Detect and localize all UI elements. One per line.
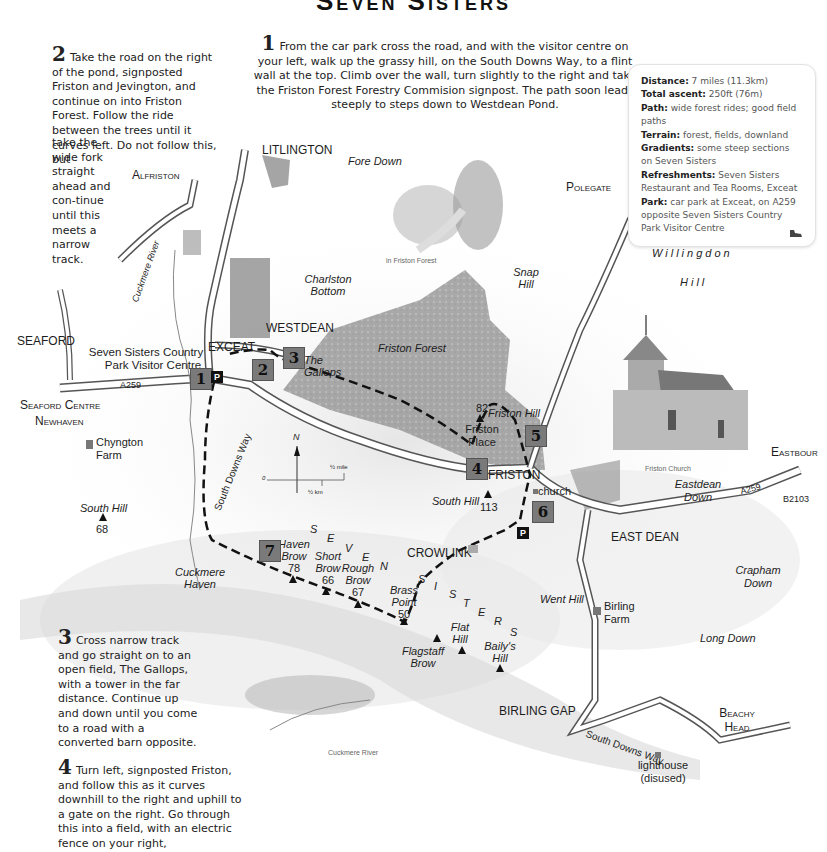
place-birling-farm: BirlingFarm bbox=[604, 600, 635, 626]
place-south-hill-east: South Hill bbox=[432, 495, 479, 507]
north-label: N bbox=[293, 432, 300, 442]
seven-letter: E bbox=[362, 551, 369, 563]
info-refreshments: Refreshments: Seven Sisters Restaurant a… bbox=[641, 169, 803, 196]
step-text: Cross narrow track and go straight on to… bbox=[58, 634, 197, 749]
place-the-gallops: TheGallops bbox=[304, 354, 341, 378]
forest-illustration bbox=[388, 150, 508, 260]
place-friston-forest: Friston Forest bbox=[378, 342, 446, 354]
info-terrain: Terrain: forest, fields, downland bbox=[641, 129, 803, 142]
place-bailys-hill: Baily'sHill bbox=[480, 640, 520, 664]
place-willingdon-hill: Hill bbox=[680, 276, 707, 288]
place-rough-brow: RoughBrow67 bbox=[340, 562, 376, 598]
summit-haven-brow bbox=[289, 575, 297, 583]
step-text: Turn left, signposted Friston, and follo… bbox=[58, 764, 242, 850]
info-ascent: Total ascent: 250ft (76m) bbox=[641, 88, 803, 101]
seven-letter: N bbox=[380, 560, 388, 572]
height-friston-hill: 82 bbox=[476, 402, 488, 414]
sisters-letter: E bbox=[478, 606, 485, 618]
info-park: Park: car park at Exceat, on A259 opposi… bbox=[641, 196, 803, 236]
place-westdean: WESTDEAN bbox=[266, 321, 334, 335]
sisters-letter: R bbox=[494, 615, 502, 627]
place-east-dean: EAST DEAN bbox=[611, 530, 679, 544]
route-marker-6: 6 bbox=[532, 501, 554, 523]
walk-info-box: Distance: 7 miles (11.3km) Total ascent:… bbox=[628, 64, 816, 247]
summit-short-brow bbox=[322, 587, 330, 595]
place-eastbourne: Eastbour bbox=[771, 445, 818, 459]
step-4: 4Turn left, signposted Friston, and foll… bbox=[58, 760, 248, 852]
river-caption: Cuckmere River bbox=[328, 749, 378, 756]
step-number: 4 bbox=[58, 755, 72, 779]
place-crowlink: CROWLINK bbox=[407, 546, 472, 560]
route-marker-3: 3 bbox=[283, 347, 305, 369]
place-flagstaff-brow: FlagstaffBrow bbox=[398, 645, 448, 669]
place-visitor-centre: Seven Sisters CountryPark Visitor Centre bbox=[86, 346, 206, 372]
church-caption: Friston Church bbox=[645, 465, 691, 472]
seven-letter: V bbox=[345, 542, 352, 554]
route-marker-7: 7 bbox=[259, 540, 281, 562]
place-friston-hill: Friston Hill bbox=[488, 407, 540, 419]
summit-bailys-hill bbox=[496, 664, 504, 672]
summit-rough-brow bbox=[354, 600, 362, 608]
parking-icon: P bbox=[211, 371, 223, 383]
parking-icon: P bbox=[517, 527, 529, 539]
place-went-hill: Went Hill bbox=[540, 593, 584, 605]
scale-mile: ½ mile bbox=[330, 464, 348, 470]
place-beachy-head: BeachyHead bbox=[712, 706, 762, 734]
place-seaford: SEAFORD bbox=[17, 334, 75, 348]
height-south-hill-west: 68 bbox=[96, 523, 108, 535]
place-chyngton-farm: ChyngtonFarm bbox=[96, 436, 143, 462]
route-marker-2: 2 bbox=[252, 359, 274, 381]
step-number: 1 bbox=[262, 31, 276, 55]
place-willingdon: Willingdon bbox=[652, 247, 733, 259]
info-distance: Distance: 7 miles (11.3km) bbox=[641, 75, 803, 88]
route-marker-1: 1 bbox=[190, 368, 212, 390]
road-b2103: B2103 bbox=[783, 494, 809, 504]
summit-south-hill-west bbox=[99, 513, 107, 521]
summit-south-hill-east bbox=[484, 490, 492, 498]
place-birling-gap: BIRLING GAP bbox=[499, 704, 576, 718]
lighthouse-marker bbox=[655, 752, 661, 758]
info-gradients: Gradients: some steep sections on Seven … bbox=[641, 142, 803, 169]
step-number: 2 bbox=[52, 42, 66, 66]
place-flat-hill: FlatHill bbox=[445, 621, 475, 645]
place-eastdean-down: EastdeanDown bbox=[668, 478, 728, 504]
scale-zero: 0 bbox=[262, 475, 265, 481]
place-charlston-bottom: CharlstonBottom bbox=[298, 273, 358, 297]
summit-flagstaff-brow bbox=[433, 634, 441, 642]
place-seaford-newhaven: Seaford CentreNewhaven bbox=[20, 397, 100, 429]
sisters-letter: T bbox=[463, 597, 470, 609]
step-text: take the wide fork straight ahead and co… bbox=[52, 136, 110, 266]
place-lighthouse: lighthouse(disused) bbox=[628, 759, 698, 785]
sisters-letter: S bbox=[510, 626, 517, 638]
step-3: 3Cross narrow track and go straight on t… bbox=[58, 630, 198, 751]
summit-brass-point bbox=[400, 617, 408, 625]
church-illustration bbox=[598, 310, 758, 470]
place-long-down: Long Down bbox=[700, 632, 756, 644]
step-number: 3 bbox=[58, 625, 72, 649]
forest-caption: in Friston Forest bbox=[386, 257, 437, 264]
info-path: Path: wide forest rides; good field path… bbox=[641, 102, 803, 129]
place-friston: FRISTON bbox=[488, 468, 540, 482]
seven-letter: S bbox=[310, 523, 317, 535]
road-a259-west: A259 bbox=[120, 380, 141, 390]
summit-flat-hill bbox=[458, 646, 466, 654]
sisters-letter: I bbox=[434, 580, 437, 592]
place-friston-place: FristonPlace bbox=[462, 423, 502, 449]
birling-farm-marker bbox=[593, 607, 601, 615]
place-exceat: EXCEAT bbox=[208, 340, 255, 354]
route-marker-4: 4 bbox=[466, 458, 488, 480]
step-1: 1From the car park cross the road, and w… bbox=[250, 36, 640, 113]
sisters-letter: S bbox=[418, 573, 425, 585]
place-alfriston: Alfriston bbox=[132, 168, 179, 182]
place-litlington: LITLINGTON bbox=[262, 143, 332, 157]
walking-boot-icon bbox=[789, 229, 803, 238]
place-church: church bbox=[538, 485, 571, 497]
crowlink-marker bbox=[468, 545, 478, 553]
height-south-hill-east: 113 bbox=[480, 501, 498, 513]
place-haven-brow: HavenBrow78 bbox=[276, 538, 312, 574]
place-crapham-down: CraphamDown bbox=[728, 564, 788, 590]
scale-km: ½ km bbox=[308, 489, 323, 495]
seven-letter: E bbox=[327, 532, 334, 544]
sisters-letter: S bbox=[449, 588, 456, 600]
place-polegate: Polegate bbox=[566, 180, 611, 194]
